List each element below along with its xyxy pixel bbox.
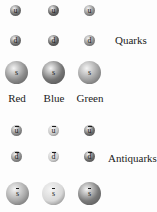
quark-d-red: d <box>10 35 21 46</box>
quarks-label: Quarks <box>115 34 147 46</box>
antiquark-s-antiblue: s <box>42 182 65 205</box>
color-label-blue: Blue <box>36 92 72 104</box>
quark-symbol: u <box>52 7 56 15</box>
quark-diagram: u u u d d d Quarks s s s Red Blue Green … <box>0 0 157 212</box>
antiquark-d-antigreen: d <box>84 151 95 162</box>
quark-symbol: d <box>88 37 92 45</box>
antiquark-symbol: u <box>88 127 92 135</box>
antiquark-symbol: u <box>15 127 19 135</box>
quark-symbol: s <box>88 69 91 77</box>
antiquark-symbol: u <box>52 127 56 135</box>
antiquark-u-antigreen: u <box>84 125 95 136</box>
color-label-red: Red <box>0 92 35 104</box>
antiquark-symbol: s <box>52 190 55 198</box>
antiquark-s-antigreen: s <box>78 182 101 205</box>
quark-u-blue: u <box>48 5 59 16</box>
quark-symbol: u <box>88 7 92 15</box>
quark-symbol: d <box>52 37 56 45</box>
antiquark-symbol: d <box>15 153 19 161</box>
quark-s-green: s <box>78 61 101 84</box>
antiquark-u-antiblue: u <box>48 125 59 136</box>
antiquark-symbol: s <box>16 190 19 198</box>
antiquark-s-antired: s <box>6 182 29 205</box>
quark-s-blue: s <box>42 61 65 84</box>
antiquark-symbol: d <box>88 153 92 161</box>
quark-u-red: u <box>10 5 21 16</box>
quark-d-blue: d <box>48 35 59 46</box>
quark-u-green: u <box>84 5 95 16</box>
antiquark-symbol: d <box>52 153 56 161</box>
antiquark-d-antired: d <box>11 151 22 162</box>
quark-s-red: s <box>5 61 28 84</box>
antiquark-u-antired: u <box>11 125 22 136</box>
quark-symbol: u <box>14 7 18 15</box>
color-label-green: Green <box>72 92 108 104</box>
antiquarks-label: Antiquarks <box>108 152 157 164</box>
antiquark-symbol: s <box>88 190 91 198</box>
quark-d-green: d <box>84 35 95 46</box>
quark-symbol: s <box>15 69 18 77</box>
quark-symbol: s <box>52 69 55 77</box>
quark-symbol: d <box>14 37 18 45</box>
antiquark-d-antiblue: d <box>48 151 59 162</box>
